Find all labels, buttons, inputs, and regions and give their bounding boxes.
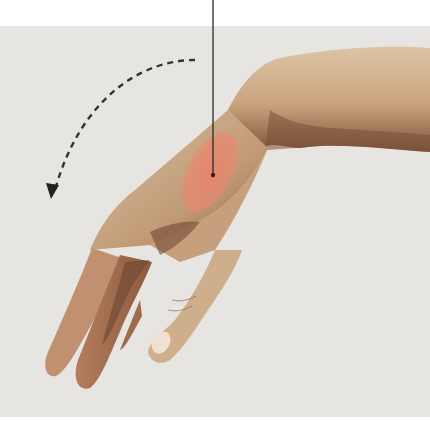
pointer-dot — [211, 173, 215, 177]
hand-illustration — [0, 0, 430, 421]
motion-arrowhead — [46, 183, 59, 199]
anatomy-figure — [0, 0, 430, 421]
